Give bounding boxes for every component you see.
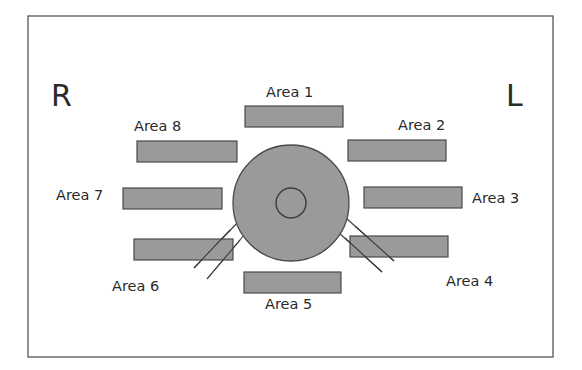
area-4-block bbox=[350, 236, 448, 257]
area-2-block bbox=[348, 140, 446, 161]
area-5-block bbox=[244, 272, 341, 293]
area-map-diagram: R L Area 1 Area 2 Area 3 Area 4 Area 5 A… bbox=[0, 0, 582, 370]
inner-circle bbox=[276, 188, 306, 218]
area-4-label: Area 4 bbox=[446, 273, 493, 289]
area-3-label: Area 3 bbox=[472, 190, 519, 206]
area-8-label: Area 8 bbox=[134, 118, 181, 134]
area-8-block bbox=[137, 141, 237, 162]
side-label-r: R bbox=[51, 78, 72, 113]
area-2-label: Area 2 bbox=[398, 117, 445, 133]
area-7-label: Area 7 bbox=[56, 187, 103, 203]
side-label-l: L bbox=[506, 78, 523, 113]
area-6-label: Area 6 bbox=[112, 278, 159, 294]
area-1-block bbox=[245, 106, 343, 127]
area-3-block bbox=[364, 187, 462, 208]
area-5-label: Area 5 bbox=[265, 296, 312, 312]
area-1-label: Area 1 bbox=[266, 84, 313, 100]
area-7-block bbox=[123, 188, 222, 209]
